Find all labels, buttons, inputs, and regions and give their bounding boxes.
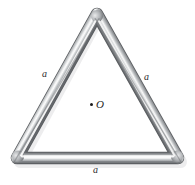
rod-shadow-group: [20, 17, 181, 162]
joint-apex: [91, 10, 103, 22]
side-label-bottom: a: [93, 165, 98, 175]
shade-left-rod: [15, 19, 100, 162]
loop-shadow: [20, 17, 181, 162]
side-label-left: a: [42, 69, 47, 79]
rod-core-shading: [15, 19, 181, 162]
center-point-group: O: [90, 99, 104, 110]
triangle-rod-diagram: [0, 0, 195, 185]
figure-container: a a a O: [0, 0, 195, 185]
rod-outline: [17, 14, 178, 158]
center-point-label: O: [96, 99, 104, 110]
rod-highlights: [21, 21, 175, 156]
shade-right-rod: [95, 19, 180, 162]
side-label-right: a: [144, 72, 149, 82]
center-point-dot: [90, 103, 93, 106]
